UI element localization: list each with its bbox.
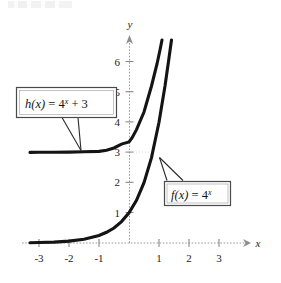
curve-f xyxy=(30,40,172,243)
y-tick-label: 1 xyxy=(115,207,121,219)
y-tick-label: 2 xyxy=(115,176,121,188)
x-tick-labels: -3 -2 -1 1 2 3 xyxy=(34,252,222,264)
y-tick-labels: 1 2 3 4 5 6 xyxy=(115,56,121,219)
x-tick-label: -2 xyxy=(64,252,73,264)
f-label-callout[interactable]: f(x) = 4x xyxy=(165,182,231,206)
x-axis-label: x xyxy=(255,237,261,249)
page-header-strip xyxy=(8,1,72,8)
y-axis-label: y xyxy=(127,18,133,30)
x-tick-label: 2 xyxy=(186,252,192,264)
h-label-text: h(x) = 4x + 3 xyxy=(25,97,88,112)
f-label-text: f(x) = 4x xyxy=(171,188,212,203)
f-label-leader-line xyxy=(160,158,184,181)
h-fn-tail: + 3 xyxy=(71,97,87,111)
x-tick-label: 1 xyxy=(156,252,162,264)
f-fn-eq: = 4 xyxy=(191,188,208,202)
h-fn-eq: = 4 xyxy=(48,97,65,111)
f-fn-arg: (x) xyxy=(174,188,188,202)
f-fn-exponent: x xyxy=(207,188,212,197)
exponential-functions-figure: -3 -2 -1 1 2 3 1 2 3 4 5 6 x y xyxy=(0,0,281,283)
h-label-callout[interactable]: h(x) = 4x + 3 xyxy=(17,88,117,118)
h-label-leader-line xyxy=(62,118,81,151)
y-tick-label: 6 xyxy=(115,56,121,68)
x-tick-label: -1 xyxy=(94,252,103,264)
graph-canvas: -3 -2 -1 1 2 3 1 2 3 4 5 6 x y xyxy=(0,0,281,283)
h-fn-arg: (x) xyxy=(31,97,45,111)
x-tick-label: -3 xyxy=(34,252,44,264)
x-tick-label: 3 xyxy=(216,252,222,264)
